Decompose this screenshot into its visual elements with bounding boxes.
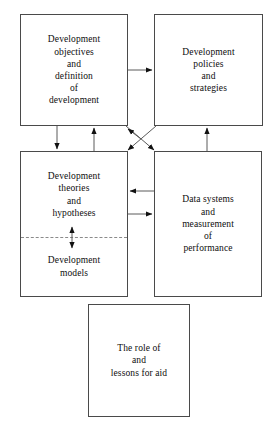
box-development-theories[interactable]: Development theories and hypotheses <box>21 152 127 237</box>
box-role-of-aid-label: The role of and lessons for aid <box>111 342 167 379</box>
arrow-cross-upper-left <box>128 129 141 139</box>
box-theories-and-models[interactable]: Development theories and hypotheses Deve… <box>20 151 128 297</box>
box-data-systems-label: Data systems and measurement of performa… <box>182 193 234 254</box>
arrow-policies-to-theories <box>128 126 156 150</box>
box-role-of-aid[interactable]: The role of and lessons for aid <box>88 304 190 417</box>
box-development-policies-label: Development policies and strategies <box>182 46 234 95</box>
box-development-models[interactable]: Development models <box>21 237 127 296</box>
diagram-canvas: Development objectives and definition of… <box>0 0 278 431</box>
box-development-objectives[interactable]: Development objectives and definition of… <box>20 14 128 126</box>
box-development-models-label: Development models <box>48 254 100 278</box>
box-development-objectives-label: Development objectives and definition of… <box>48 33 100 106</box>
box-development-theories-label: Development theories and hypotheses <box>48 170 100 219</box>
box-data-systems[interactable]: Data systems and measurement of performa… <box>154 151 262 297</box>
box-development-policies[interactable]: Development policies and strategies <box>154 14 263 126</box>
arrow-objectives-to-data-systems <box>126 126 154 150</box>
